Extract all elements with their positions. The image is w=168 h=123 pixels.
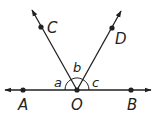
- point-label-a: A: [17, 96, 28, 114]
- point-o-dot: [74, 87, 79, 92]
- point-c-dot: [38, 24, 43, 29]
- point-a-dot: [20, 87, 25, 92]
- angle-arc-b: [71, 78, 83, 80]
- point-label-o: O: [71, 96, 83, 114]
- point-label-b: B: [127, 96, 137, 114]
- angle-arc-a: [65, 80, 71, 91]
- angle-label-c: c: [92, 75, 99, 90]
- angle-arc-c: [83, 80, 89, 91]
- point-d-dot: [109, 25, 114, 30]
- point-label-c: C: [47, 19, 58, 37]
- point-label-d: D: [115, 30, 127, 48]
- angle-label-b: b: [73, 60, 81, 75]
- point-b-dot: [128, 87, 133, 92]
- angle-diagram: C D A O B a b c: [0, 0, 168, 123]
- angle-label-a: a: [54, 75, 62, 90]
